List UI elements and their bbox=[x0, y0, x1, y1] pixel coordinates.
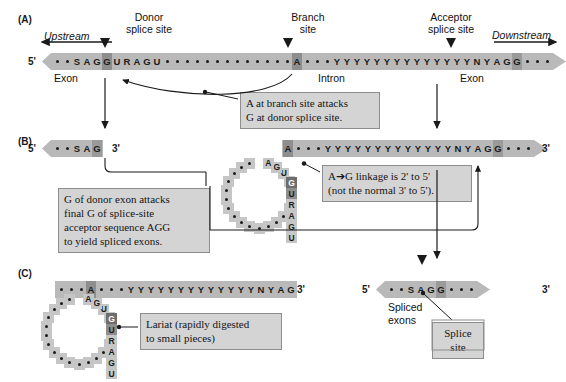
panel-c-three-prime: 3' bbox=[542, 284, 550, 295]
donor-exon-residue bbox=[52, 140, 62, 157]
lariat-c-branch-letter: G bbox=[106, 313, 117, 324]
note-branch-attack: A at branch site attacks G at donor spli… bbox=[240, 92, 380, 129]
branch-site-caret bbox=[283, 38, 293, 48]
pre-mrna-residue: Y bbox=[362, 53, 372, 70]
pre-mrna-residue: U bbox=[112, 53, 122, 70]
strand-left-cap bbox=[42, 140, 51, 157]
spliced-exon-residue bbox=[396, 281, 406, 298]
strand-left-cap bbox=[42, 53, 51, 70]
branch-site-label-line1: Branch bbox=[278, 12, 338, 24]
intron-tail-residue: Y bbox=[343, 140, 353, 157]
lariat-c-branch-letter: R bbox=[106, 335, 117, 346]
spliced-exon-residue bbox=[466, 281, 476, 298]
upstream-label: Upstream bbox=[44, 30, 90, 42]
splice-site-line1: Splice bbox=[438, 326, 478, 340]
pre-mrna-residue: Y bbox=[432, 53, 442, 70]
lariat-b-branch-letter: G bbox=[286, 177, 297, 188]
intron-tail-residue: N bbox=[453, 140, 463, 157]
exon-left-label-a: Exon bbox=[54, 73, 78, 85]
pre-mrna-residue bbox=[172, 53, 182, 70]
lariat-c-branch-letter: U bbox=[106, 368, 117, 379]
pre-mrna-residue: A bbox=[492, 53, 502, 70]
pre-mrna-residue: R bbox=[122, 53, 132, 70]
pre-mrna-residue: N bbox=[472, 53, 482, 70]
pre-mrna-residue bbox=[272, 53, 282, 70]
pre-mrna-residue bbox=[202, 53, 212, 70]
spliced-exon-residue bbox=[456, 281, 466, 298]
pre-mrna-residue: G bbox=[502, 53, 512, 70]
lariat-b-branch-letter: U bbox=[286, 188, 297, 199]
pre-mrna-residue bbox=[282, 53, 292, 70]
intron-tail-residue: Y bbox=[363, 140, 373, 157]
lariat-tail-residue: Y bbox=[206, 281, 216, 298]
strand-left-cap bbox=[376, 281, 385, 298]
intron-tail-residue: Y bbox=[393, 140, 403, 157]
spliced-exon-residue: G bbox=[436, 281, 446, 298]
pre-mrna-residue: Y bbox=[392, 53, 402, 70]
donor-splice-site-label-line2: splice site bbox=[104, 24, 194, 36]
pre-mrna-residue: Y bbox=[422, 53, 432, 70]
pre-mrna-residue: U bbox=[152, 53, 162, 70]
lariat-tail-residue: Y bbox=[246, 281, 256, 298]
strand-sequence-b-left: SAG bbox=[51, 140, 103, 157]
strand-sequence-a: SAGGURAGUAYYYYYYYYYYYYYYNYAGG bbox=[51, 53, 553, 70]
pre-mrna-residue bbox=[242, 53, 252, 70]
donor-splice-site-label-line1: Donor bbox=[114, 12, 184, 24]
lariat-tail-residue: Y bbox=[136, 281, 146, 298]
lariat-b-ring-bead: A bbox=[263, 158, 274, 169]
pre-mrna-residue bbox=[62, 53, 72, 70]
pre-mrna-residue bbox=[162, 53, 172, 70]
lariat-tail-residue: Y bbox=[266, 281, 276, 298]
panel-a-five-prime: 5' bbox=[28, 56, 36, 67]
lariat-c-ring-bead: A bbox=[83, 294, 94, 305]
strand-right-cap bbox=[553, 53, 566, 70]
donor-exon-residue: S bbox=[72, 140, 82, 157]
intron-tail-residue: Y bbox=[383, 140, 393, 157]
pre-mrna-residue: Y bbox=[452, 53, 462, 70]
pre-mrna-residue bbox=[222, 53, 232, 70]
pre-mrna-residue bbox=[532, 53, 542, 70]
note-donor-attack: G of donor exon attacks final G of splic… bbox=[58, 188, 210, 253]
intron-tail-residue bbox=[503, 140, 513, 157]
lariat-tail-residue: Y bbox=[126, 281, 136, 298]
spliced-exons-label-line1: Spliced bbox=[388, 302, 422, 314]
intron-tail-residue: Y bbox=[463, 140, 473, 157]
pre-mrna-residue bbox=[312, 53, 322, 70]
spliced-exons-label-line2: exons bbox=[388, 315, 416, 327]
panel-b-five-prime: 5' bbox=[28, 143, 36, 154]
intron-tail-residue: Y bbox=[433, 140, 443, 157]
lariat-b-branch-letter: G bbox=[286, 221, 297, 232]
intron-label-a: Intron bbox=[318, 73, 345, 85]
spliced-exon-residue: A bbox=[416, 281, 426, 298]
lariat-c-branch-letter: G bbox=[106, 357, 117, 368]
intron-tail-residue: G bbox=[483, 140, 493, 157]
intron-tail-residue: A bbox=[473, 140, 483, 157]
strand-sequence-b-right: AYYYYYYYYYYYYYNYAGG bbox=[282, 140, 534, 157]
lariat-tail-residue: Y bbox=[236, 281, 246, 298]
pre-mrna-residue: Y bbox=[442, 53, 452, 70]
pre-mrna-residue bbox=[262, 53, 272, 70]
pre-mrna-residue: Y bbox=[482, 53, 492, 70]
panel-c-lariat-three-prime: 3' bbox=[297, 284, 305, 295]
lariat-tail-residue: Y bbox=[166, 281, 176, 298]
note-splice-site: Splice site bbox=[432, 322, 484, 359]
acceptor-splice-caret bbox=[446, 38, 456, 48]
pre-mrna-residue: G bbox=[92, 53, 102, 70]
pre-mrna-residue: A bbox=[292, 53, 302, 70]
lariat-b-branch-letter: U bbox=[286, 232, 297, 243]
pre-mrna-residue: Y bbox=[352, 53, 362, 70]
downstream-label: Downstream bbox=[492, 29, 551, 41]
pre-mrna-residue: A bbox=[132, 53, 142, 70]
pre-mrna-residue: Y bbox=[372, 53, 382, 70]
branch-site-label-line2: site bbox=[278, 24, 338, 36]
exon-right-label-a: Exon bbox=[460, 73, 484, 85]
pre-mrna-residue: Y bbox=[462, 53, 472, 70]
pre-mrna-residue bbox=[52, 53, 62, 70]
spliced-exon-residue: G bbox=[426, 281, 436, 298]
lariat-tail-residue: Y bbox=[176, 281, 186, 298]
pre-mrna-residue bbox=[232, 53, 242, 70]
intron-tail-residue bbox=[303, 140, 313, 157]
pre-mrna-residue: A bbox=[82, 53, 92, 70]
acceptor-splice-site-label-line2: splice site bbox=[406, 24, 496, 36]
donor-exon-strand: SAG bbox=[42, 140, 103, 157]
